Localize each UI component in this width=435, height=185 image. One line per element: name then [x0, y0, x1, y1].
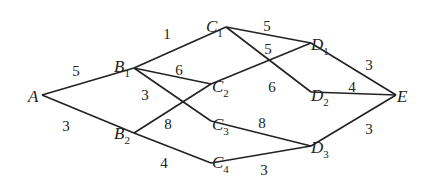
node-a: A [27, 87, 39, 106]
edge-weight-c3-d3: 8 [258, 115, 266, 131]
node-subscript: 1 [323, 45, 329, 57]
node-letter: E [396, 87, 408, 106]
edge-weight-d1-e: 3 [365, 57, 373, 73]
node-b1: B1 [114, 57, 130, 79]
node-d3: D3 [310, 138, 329, 160]
node-subscript: 4 [223, 163, 229, 175]
node-subscript: 3 [323, 148, 329, 160]
node-subscript: 2 [223, 87, 229, 99]
node-letter: D [310, 86, 324, 105]
node-subscript: 2 [124, 134, 130, 146]
node-letter: B [114, 124, 125, 143]
edge-weight-a-b1: 5 [72, 63, 80, 79]
edge-weight-d2-e: 4 [348, 79, 356, 95]
node-letter: D [310, 35, 324, 54]
edge-weight-b1-c3: 3 [141, 87, 149, 103]
edge-b2-c4 [134, 133, 211, 163]
node-subscript: 1 [124, 67, 130, 79]
edge-weight-b2-c4: 4 [160, 155, 168, 171]
edge-weight-b1-c2: 6 [175, 62, 183, 78]
node-letter: A [27, 87, 39, 106]
edge-weight-c1-d1: 5 [263, 18, 271, 34]
edge-weight-c1-d2: 6 [268, 79, 276, 95]
node-c1: C1 [206, 17, 223, 39]
edge-weight-b1-c1: 1 [163, 26, 171, 42]
node-c2: C2 [212, 77, 229, 99]
node-d1: D1 [310, 35, 329, 57]
node-letter: D [310, 138, 324, 157]
node-c4: C4 [212, 153, 229, 175]
node-d2: D2 [310, 86, 329, 108]
node-letter: C [206, 17, 218, 36]
edge-weight-d3-e: 3 [365, 121, 373, 137]
node-letter: B [114, 57, 125, 76]
network-diagram: 531638456583343 AB1B2C1C2C3C4D1D2D3E [0, 0, 435, 185]
edge-weight-c2-d1: 5 [264, 41, 272, 57]
node-subscript: 1 [217, 27, 223, 39]
edge-c2-d1 [211, 43, 311, 84]
node-c3: C3 [212, 115, 229, 137]
node-subscript: 2 [323, 96, 329, 108]
node-letter: C [212, 153, 224, 172]
edge-weight-a-b2: 3 [62, 118, 70, 134]
edge-weight-b2-c2: 8 [164, 116, 172, 132]
node-letter: C [212, 115, 224, 134]
edge-c4-d3 [211, 146, 311, 163]
node-subscript: 3 [223, 125, 229, 137]
node-e: E [396, 87, 408, 106]
nodes-group: AB1B2C1C2C3C4D1D2D3E [27, 17, 408, 175]
node-letter: C [212, 77, 224, 96]
edge-weight-c4-d3: 3 [260, 162, 268, 178]
node-b2: B2 [114, 124, 130, 146]
